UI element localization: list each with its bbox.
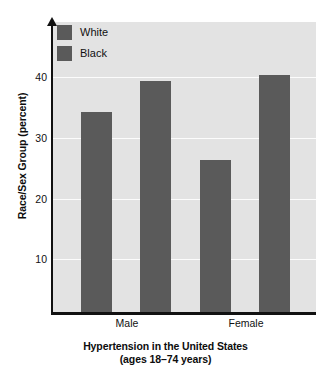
bar-white-male[interactable] (81, 112, 112, 312)
bar-black-female[interactable] (259, 75, 290, 312)
legend: White Black (57, 23, 108, 65)
legend-label-black: Black (80, 48, 107, 59)
bar-chart-figure: Race/Sex Group (percent) 40 30 20 10 Whi… (0, 0, 331, 372)
y-tick-20: 20 (3, 194, 47, 204)
y-tick-10: 10 (3, 254, 47, 264)
y-axis-tick-labels: 40 30 20 10 (0, 0, 47, 372)
bar-black-male[interactable] (140, 81, 171, 312)
legend-swatch-black-icon (57, 46, 72, 61)
y-tick-30: 30 (3, 133, 47, 143)
caption-line-1: Hypertension in the United States (0, 340, 331, 353)
bar-white-female[interactable] (200, 160, 231, 312)
x-tick-female: Female (201, 317, 291, 329)
plot-area (53, 22, 316, 312)
y-tick-40: 40 (3, 72, 47, 82)
x-axis-line (51, 312, 316, 315)
chart-caption: Hypertension in the United States (ages … (0, 340, 331, 366)
legend-label-white: White (80, 27, 108, 38)
y-axis-line (51, 24, 53, 314)
x-tick-male: Male (82, 317, 172, 329)
legend-swatch-white-icon (57, 25, 72, 40)
caption-line-2: (ages 18–74 years) (0, 353, 331, 366)
legend-item-white[interactable]: White (57, 23, 108, 41)
y-axis-arrow-icon (47, 17, 57, 26)
legend-item-black[interactable]: Black (57, 44, 108, 62)
